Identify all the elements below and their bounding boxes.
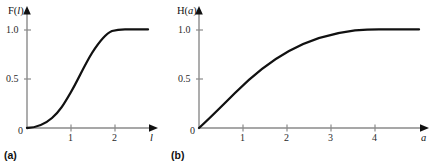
y-axis-arrowhead-a	[23, 6, 31, 15]
panel-caption-b: (b)	[171, 150, 184, 161]
curve-H-of-a	[199, 29, 419, 128]
x-tick-label-2-b: 2	[284, 133, 289, 143]
origin-label-a: 0	[18, 126, 23, 136]
x-tick-label-3-b: 3	[328, 133, 333, 143]
panel-b: H(a) 1.0 0.5 0 1 2 3 4 a (b)	[165, 0, 441, 168]
x-tick-label-1-b: 1	[240, 133, 245, 143]
y-axis-label-b: H(a)	[177, 6, 197, 17]
x-axis-label-a: l	[150, 133, 153, 144]
x-tick-label-1-a: 1	[68, 133, 73, 143]
y-axis-label-a: F(l)	[8, 6, 24, 17]
origin-label-b: 0	[190, 126, 195, 136]
x-axis-arrowhead-b	[420, 124, 429, 131]
x-axis-arrowhead-a	[149, 124, 158, 131]
y-tick-label-0.5-b: 0.5	[178, 74, 191, 84]
panel-b-plot	[165, 0, 441, 168]
y-tick-label-1.0-b: 1.0	[178, 25, 191, 35]
figure-two-panel-plots: F(l) 1.0 0.5 0 1 2 l (a)	[0, 0, 441, 168]
panel-caption-a: (a)	[4, 150, 17, 161]
curve-F-of-l	[27, 29, 148, 128]
y-axis-label-fn-b: H	[177, 5, 185, 16]
y-tick-label-1.0-a: 1.0	[6, 25, 19, 35]
y-tick-label-0.5-a: 0.5	[6, 74, 19, 84]
x-tick-label-2-a: 2	[112, 133, 117, 143]
x-axis-label-b: a	[421, 133, 426, 144]
x-tick-label-4-b: 4	[372, 133, 377, 143]
